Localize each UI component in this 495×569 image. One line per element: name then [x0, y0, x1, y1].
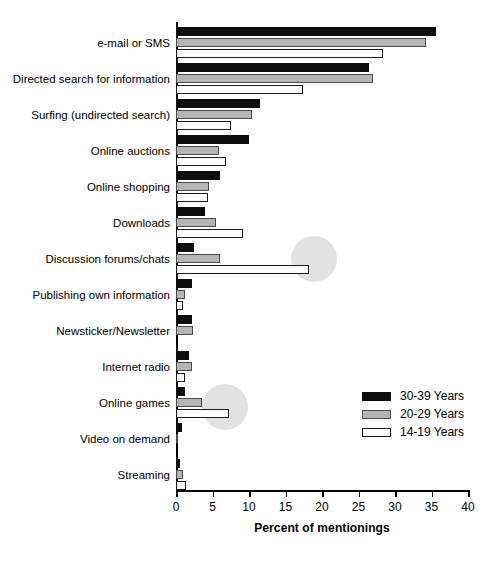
bar	[176, 326, 193, 335]
bar	[176, 99, 260, 108]
bar	[176, 290, 185, 299]
bar	[176, 362, 192, 371]
bar	[176, 351, 189, 360]
bar-group	[176, 279, 468, 312]
x-axis-tick-label: 25	[344, 500, 374, 514]
bar	[176, 171, 220, 180]
bars-layer	[176, 22, 468, 490]
bar	[176, 279, 192, 288]
bar-group	[176, 135, 468, 168]
bar	[176, 423, 182, 432]
bar-group	[176, 99, 468, 132]
bar-group	[176, 207, 468, 240]
bar	[176, 373, 185, 382]
x-axis-tick-label: 0	[161, 500, 191, 514]
bar	[176, 85, 303, 94]
x-axis-title: Percent of mentionings	[176, 521, 468, 535]
bar	[176, 481, 186, 490]
category-label: Streaming	[118, 469, 170, 481]
bar	[176, 387, 185, 396]
x-axis-tick-label: 5	[198, 500, 228, 514]
plot-area	[176, 22, 468, 490]
x-axis-tick-label: 30	[380, 500, 410, 514]
bar	[176, 110, 252, 119]
x-axis-tick-label: 15	[271, 500, 301, 514]
category-label: Surfing (undirected search)	[31, 109, 170, 121]
category-label: Online auctions	[91, 145, 170, 157]
bar	[176, 315, 192, 324]
bar-group	[176, 243, 468, 276]
bar	[176, 243, 194, 252]
bar-chart: e-mail or SMS Directed search for inform…	[0, 0, 495, 569]
x-axis-tick	[468, 490, 470, 497]
bar	[176, 398, 202, 407]
x-axis-tick-label: 40	[453, 500, 483, 514]
bar-group	[176, 459, 468, 492]
bar	[176, 254, 220, 263]
category-label: Discussion forums/chats	[45, 253, 170, 265]
bar-group	[176, 63, 468, 96]
bar	[176, 74, 373, 83]
bar	[176, 207, 205, 216]
bar	[176, 27, 436, 36]
bar	[176, 409, 229, 418]
bar	[176, 193, 208, 202]
bar	[176, 146, 219, 155]
bar	[176, 265, 309, 274]
bar	[176, 135, 249, 144]
bar	[176, 301, 183, 310]
bar	[176, 63, 369, 72]
bar-group	[176, 423, 468, 456]
category-label: e-mail or SMS	[97, 37, 170, 49]
bar	[176, 229, 243, 238]
x-axis-tick-label: 35	[417, 500, 447, 514]
bar	[176, 157, 226, 166]
category-label: Newsticker/Newsletter	[56, 325, 170, 337]
bar-group	[176, 387, 468, 420]
x-axis-tick-label: 20	[307, 500, 337, 514]
bar	[176, 38, 426, 47]
category-label: Downloads	[113, 217, 170, 229]
category-label: Publishing own information	[33, 289, 170, 301]
bar	[176, 121, 231, 130]
bar-group	[176, 315, 468, 348]
bar	[176, 459, 180, 468]
category-axis-labels: e-mail or SMS Directed search for inform…	[0, 22, 170, 490]
bar-group	[176, 171, 468, 204]
bar	[176, 218, 216, 227]
category-label: Online games	[99, 397, 170, 409]
bar	[176, 434, 178, 443]
bar-group	[176, 27, 468, 60]
category-label: Internet radio	[102, 361, 170, 373]
x-axis-tick-label: 10	[234, 500, 264, 514]
bar	[176, 470, 183, 479]
category-label: Video on demand	[80, 433, 170, 445]
category-label: Online shopping	[87, 181, 170, 193]
bar-group	[176, 351, 468, 384]
bar	[176, 182, 209, 191]
category-label: Directed search for information	[13, 73, 170, 85]
bar	[176, 49, 383, 58]
